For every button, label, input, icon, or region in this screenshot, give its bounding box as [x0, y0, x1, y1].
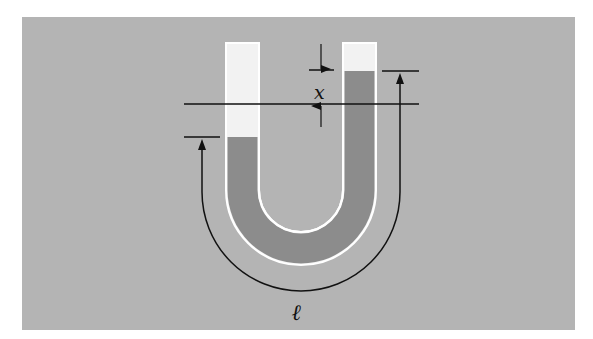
right-arrowhead-icon [396, 73, 404, 84]
height-difference-dimension: x [309, 44, 334, 127]
u-tube-diagram: x ℓ [0, 0, 593, 339]
left-arrowhead-icon [198, 139, 206, 150]
x-label: x [314, 81, 325, 103]
length-label: ℓ [292, 299, 301, 325]
u-tube [226, 43, 376, 265]
